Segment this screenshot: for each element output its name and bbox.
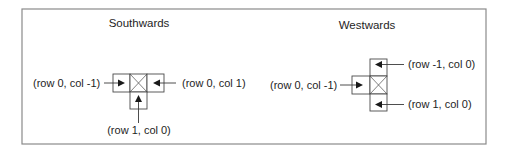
cell-north <box>370 59 387 76</box>
cell-south <box>370 94 387 111</box>
label-rowminus1-col0: (row -1, col 0) <box>408 58 475 70</box>
label-row0-colminus1: (row 0, col -1) <box>33 77 100 89</box>
southwards-title: Southwards <box>109 17 170 29</box>
label-row1-col0: (row 1, col 0) <box>408 98 472 110</box>
label-row1-col0: (row 1, col 0) <box>107 124 171 136</box>
label-row0-colminus1: (row 0, col -1) <box>270 79 337 91</box>
westwards-title: Westwards <box>339 19 396 31</box>
direction-diagram: Southwards (row 0, col -1) (row 0, col 1… <box>0 0 508 153</box>
westwards-panel: Westwards (row -1, col 0) (row 0, col -1… <box>270 19 475 111</box>
label-row0-col1: (row 0, col 1) <box>182 77 246 89</box>
southwards-panel: Southwards (row 0, col -1) (row 0, col 1… <box>33 17 246 136</box>
